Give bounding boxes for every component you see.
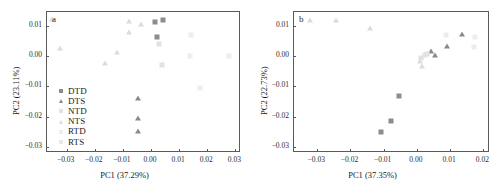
- panel-label-b: b: [299, 15, 304, 24]
- data-point-dtd: [379, 130, 384, 135]
- x-tick: [317, 149, 318, 152]
- data-point-nts: [126, 19, 132, 24]
- data-point-ntd: [425, 52, 430, 57]
- y-tick: [293, 56, 296, 57]
- data-point-dts: [135, 129, 141, 134]
- y-tick: [46, 147, 49, 148]
- data-point-nts: [102, 60, 108, 65]
- x-tick: [350, 149, 351, 152]
- data-point-ntd: [159, 63, 164, 68]
- y-tick-label: 0.00: [276, 51, 289, 59]
- data-point-rtd: [472, 44, 477, 49]
- pca-figure: a PC1 (37.29%) PC2 (23.11%) DTDDTSNTDNTS…: [0, 0, 497, 189]
- data-point-nts: [333, 18, 339, 23]
- data-point-dtd: [153, 20, 158, 25]
- triangle-marker-icon: [56, 99, 66, 103]
- data-point-nts: [307, 18, 313, 23]
- square-marker-icon: [56, 130, 66, 134]
- data-point-rtd: [227, 53, 232, 58]
- data-point-nts: [367, 26, 373, 31]
- y-tick-label: −0.01: [25, 82, 42, 90]
- x-tick: [123, 149, 124, 152]
- legend-item-dtd[interactable]: DTD: [56, 86, 87, 96]
- y-tick-label: −0.03: [272, 142, 289, 150]
- data-point-rtd: [188, 32, 193, 37]
- x-tick: [207, 149, 208, 152]
- legend-item-label: NTS: [68, 117, 85, 126]
- data-point-nts: [138, 21, 144, 26]
- x-tick-label: 0.02: [476, 156, 489, 164]
- x-tick-label: 0.01: [443, 156, 456, 164]
- x-tick: [179, 149, 180, 152]
- x-tick-label: −0.03: [57, 156, 74, 164]
- data-point-dtd: [160, 18, 165, 23]
- data-point-dts: [444, 43, 450, 48]
- x-tick: [483, 149, 484, 152]
- plot-area-b: [293, 11, 489, 152]
- legend-item-label: RTS: [68, 138, 84, 147]
- legend-item-label: RTD: [68, 127, 86, 136]
- x-tick-label: −0.02: [85, 156, 102, 164]
- data-point-rtd: [473, 34, 478, 39]
- x-tick-label: 0.02: [200, 156, 213, 164]
- x-tick-label: 0.00: [409, 156, 422, 164]
- legend-item-rtd[interactable]: RTD: [56, 127, 87, 137]
- legend-item-label: NTD: [68, 107, 87, 116]
- y-tick: [46, 117, 49, 118]
- y-tick: [293, 86, 296, 87]
- data-point-rtd: [198, 86, 203, 91]
- legend-item-label: DTD: [68, 87, 87, 96]
- x-axis-title-b: PC1 (37.35%): [248, 171, 497, 180]
- y-tick-label: 0.00: [29, 51, 42, 59]
- data-point-dtd: [396, 93, 401, 98]
- legend-item-label: DTS: [68, 97, 85, 106]
- legend-item-nts[interactable]: NTS: [56, 117, 87, 127]
- data-point-dts: [135, 95, 141, 100]
- y-tick-label: −0.02: [25, 112, 42, 120]
- data-point-nts: [114, 49, 120, 54]
- data-point-rtd: [187, 53, 192, 58]
- x-tick-label: −0.01: [113, 156, 130, 164]
- x-tick-label: 0.01: [172, 156, 185, 164]
- data-point-rtd: [444, 33, 449, 38]
- x-tick: [235, 149, 236, 152]
- y-tick: [46, 26, 49, 27]
- y-axis-title-b: PC2 (22.73%): [260, 66, 269, 115]
- y-tick: [293, 147, 296, 148]
- legend-a: DTDDTSNTDNTSRTDRTS: [56, 86, 87, 147]
- x-tick-label: 0.03: [228, 156, 241, 164]
- x-tick: [67, 149, 68, 152]
- x-tick-label: −0.01: [374, 156, 391, 164]
- legend-item-dts[interactable]: DTS: [56, 96, 87, 106]
- y-axis-title-a: PC2 (23.11%): [12, 66, 21, 114]
- data-point-dtd: [155, 34, 160, 39]
- y-tick-label: 0.01: [276, 21, 289, 29]
- y-tick-label: −0.02: [272, 112, 289, 120]
- legend-item-ntd[interactable]: NTD: [56, 106, 87, 116]
- x-tick: [450, 149, 451, 152]
- x-tick: [151, 149, 152, 152]
- y-tick: [46, 86, 49, 87]
- square-marker-icon: [56, 140, 66, 144]
- data-point-nts: [126, 29, 132, 34]
- panel-a: a PC1 (37.29%) PC2 (23.11%) DTDDTSNTDNTS…: [0, 0, 249, 189]
- y-tick: [46, 56, 49, 57]
- data-point-nts: [417, 58, 423, 63]
- y-tick-label: −0.03: [25, 142, 42, 150]
- data-point-nts: [419, 63, 425, 68]
- data-point-dts: [135, 115, 141, 120]
- square-marker-icon: [56, 109, 66, 113]
- y-tick: [293, 117, 296, 118]
- x-tick-label: −0.02: [341, 156, 358, 164]
- data-point-dts: [459, 32, 465, 37]
- square-marker-icon: [56, 89, 66, 93]
- x-tick-label: −0.03: [308, 156, 325, 164]
- data-point-nts: [57, 45, 63, 50]
- y-tick-label: 0.01: [29, 21, 42, 29]
- x-tick-label: 0.00: [143, 156, 156, 164]
- data-point-ntd: [157, 41, 162, 46]
- panel-b: b PC1 (37.35%) PC2 (22.73%) DTDDTSNTDNTS…: [248, 0, 497, 189]
- legend-item-rts[interactable]: RTS: [56, 137, 87, 147]
- triangle-marker-icon: [56, 120, 66, 124]
- x-tick: [417, 149, 418, 152]
